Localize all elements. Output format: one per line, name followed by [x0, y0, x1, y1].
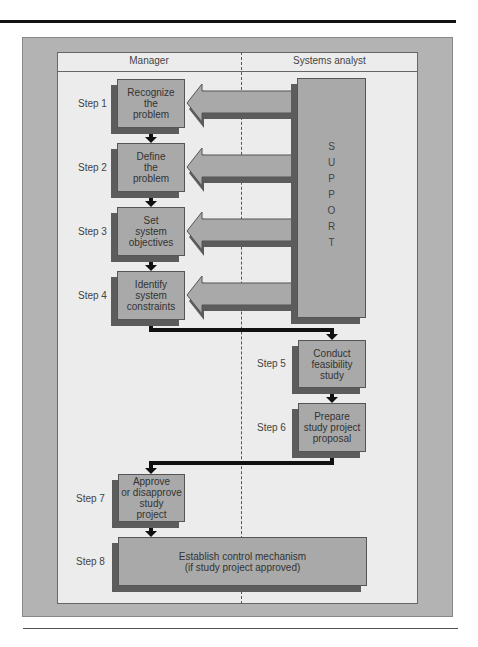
support-letter: P	[298, 187, 365, 203]
support-label: S U P P O R T	[298, 139, 365, 251]
step-label-7: Step 7	[76, 493, 105, 504]
step-label-2: Step 2	[78, 162, 107, 173]
step-label-3: Step 3	[78, 226, 107, 237]
step-box-recognize-problem: Recognize the problem	[117, 79, 185, 128]
step-box-control-mechanism: Establish control mechanism (if study pr…	[118, 537, 367, 586]
step-label-8: Step 8	[76, 556, 105, 567]
step-label-5: Step 5	[257, 358, 286, 369]
support-letter: T	[298, 235, 365, 251]
step-label-4: Step 4	[78, 290, 107, 301]
step-box-approve-project: Approve or disapprove study project	[118, 474, 185, 522]
support-letter: P	[298, 171, 365, 187]
support-letter: O	[298, 203, 365, 219]
connector-step-6-to-7	[151, 452, 332, 468]
step-box-prepare-proposal: Prepare study project proposal	[298, 403, 366, 452]
step-box-identify-constraints: Identify system constraints	[117, 271, 185, 320]
support-box: S U P P O R T	[297, 78, 366, 318]
bottom-rule	[23, 628, 458, 629]
support-letter: S	[298, 139, 365, 155]
step-label-1: Step 1	[78, 98, 107, 109]
step-box-define-problem: Define the problem	[117, 143, 185, 192]
step-box-set-objectives: Set system objectives	[117, 207, 185, 256]
connector-step-4-to-5	[151, 320, 332, 334]
step-box-feasibility-study: Conduct feasibility study	[298, 340, 366, 388]
support-letter: R	[298, 219, 365, 235]
support-letter: U	[298, 155, 365, 171]
step-label-6: Step 6	[257, 422, 286, 433]
